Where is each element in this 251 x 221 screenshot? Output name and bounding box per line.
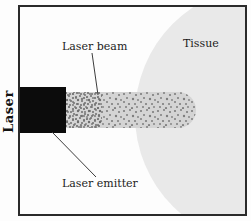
laser-emitter-pointer-line — [52, 132, 96, 177]
laser-beam-dense-stipple — [66, 92, 102, 128]
tissue-label: Tissue — [183, 37, 219, 50]
laser-emitter-label: Laser emitter — [62, 177, 138, 190]
laser-axis-label: Laser — [1, 86, 16, 138]
laser-emitter-shape — [20, 87, 66, 133]
laser-beam-pointer-line — [92, 53, 98, 95]
laser-tissue-diagram: Laser beam Tissue Laser emitter Laser — [0, 0, 251, 221]
laser-beam-label: Laser beam — [62, 40, 127, 53]
